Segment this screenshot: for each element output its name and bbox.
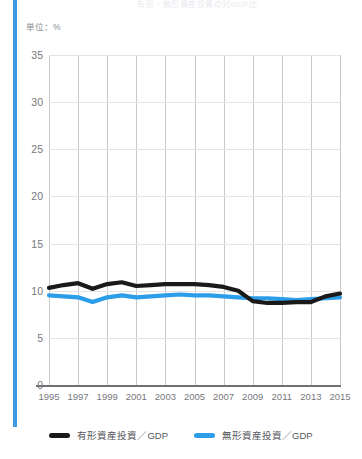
x-tick-label: 2001 <box>126 391 147 402</box>
x-tick-label: 1995 <box>38 391 59 402</box>
x-tick-label: 2005 <box>184 391 205 402</box>
x-tick-label: 2011 <box>272 391 292 402</box>
x-tick-label: 2015 <box>329 391 350 402</box>
legend-swatch-intangible <box>194 433 215 438</box>
legend-label-tangible: 有形資産投資／GDP <box>77 428 168 442</box>
x-tick-label: 1999 <box>97 391 118 402</box>
x-tick-label: 2013 <box>300 391 321 402</box>
x-axis-tick-labels: 1995199719992001200320052007200920112013… <box>0 0 362 459</box>
legend-item-tangible: 有形資産投資／GDP <box>49 428 168 442</box>
x-tick-label: 2007 <box>213 391 234 402</box>
legend-swatch-tangible <box>49 433 70 438</box>
x-tick-label: 2003 <box>155 391 176 402</box>
chart-legend: 有形資産投資／GDP 無形資産投資／GDP <box>0 428 362 442</box>
x-tick-label: 1997 <box>68 391 89 402</box>
legend-label-intangible: 無形資産投資／GDP <box>222 428 313 442</box>
x-tick-label: 2009 <box>242 391 263 402</box>
legend-item-intangible: 無形資産投資／GDP <box>194 428 313 442</box>
